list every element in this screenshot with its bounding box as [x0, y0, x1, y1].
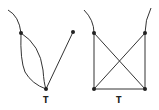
- node: [19, 31, 23, 35]
- left-dangling-edge: [8, 10, 21, 33]
- left-edge-straight: [46, 32, 73, 89]
- node: [44, 87, 48, 91]
- right-graph-label: T: [116, 96, 121, 105]
- node: [92, 31, 96, 35]
- left-edge-left-curve: [21, 33, 46, 89]
- node: [143, 31, 147, 35]
- left-edge-right-curve: [21, 33, 46, 89]
- node: [92, 87, 96, 91]
- right-dangling-right: [145, 8, 151, 33]
- left-graph-label: T: [43, 96, 48, 105]
- right-dangling-left: [84, 10, 94, 33]
- node: [71, 30, 75, 34]
- diagram: T T: [0, 0, 159, 110]
- graph-drawing: [0, 0, 159, 110]
- node: [143, 87, 147, 91]
